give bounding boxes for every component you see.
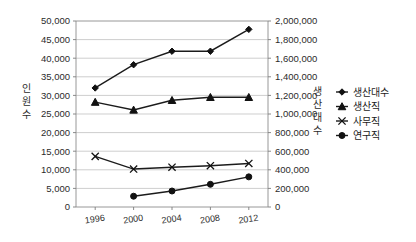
left-axis-tick-labels: 05,00010,00015,00020,00025,00030,00035,0… (41, 15, 70, 212)
right-axis-tick-label: 1,200,000 (275, 90, 317, 101)
chart-container: 05,00010,00015,00020,00025,00030,00035,0… (0, 0, 416, 242)
right-axis-title-char: 산 (313, 99, 322, 110)
right-axis-tick-label: 0 (275, 201, 280, 212)
line-chart: 05,00010,00015,00020,00025,00030,00035,0… (0, 0, 416, 242)
right-axis-tick-label: 1,000,000 (275, 108, 317, 119)
left-axis-tick-label: 30,000 (41, 90, 70, 101)
left-axis-tick-label: 10,000 (41, 164, 70, 175)
right-axis-tick-label: 1,600,000 (275, 53, 317, 64)
right-axis-tick-label: 400,000 (275, 164, 309, 175)
marker-circle (207, 181, 213, 187)
left-axis-tick-label: 15,000 (41, 146, 70, 157)
right-axis-tick-label: 1,800,000 (275, 34, 317, 45)
legend-label: 생산대수 (353, 87, 389, 98)
right-axis-tick-label: 600,000 (275, 146, 309, 157)
left-axis-tick-label: 5,000 (46, 183, 70, 194)
left-axis-title-char: 원 (22, 96, 31, 107)
marker-circle (131, 193, 137, 199)
legend-label: 사무직 (353, 116, 380, 127)
right-axis-title-char: 생 (313, 86, 322, 97)
right-axis-title-char: 수 (313, 125, 322, 136)
right-axis-title-char: 대 (313, 112, 322, 123)
marker-circle (169, 188, 175, 194)
left-axis-tick-label: 35,000 (41, 71, 70, 82)
right-axis-tick-label: 800,000 (275, 127, 309, 138)
left-axis-tick-label: 50,000 (41, 15, 70, 26)
legend-label: 연구직 (353, 130, 380, 141)
left-axis-tick-label: 0 (65, 201, 70, 212)
right-axis-tick-label: 200,000 (275, 183, 309, 194)
right-axis-tick-label: 2,000,000 (275, 15, 317, 26)
marker-circle (339, 133, 345, 139)
left-axis-tick-label: 25,000 (41, 108, 70, 119)
right-axis-tick-label: 1,400,000 (275, 71, 317, 82)
left-axis-tick-label: 45,000 (41, 34, 70, 45)
left-axis-tick-label: 40,000 (41, 53, 70, 64)
left-axis-title-char: 인 (22, 83, 31, 94)
marker-circle (246, 174, 252, 180)
left-axis-title: 인원수 (22, 83, 31, 120)
left-axis-title-char: 수 (22, 109, 31, 120)
legend-label: 생산직 (353, 101, 380, 112)
left-axis-tick-label: 20,000 (41, 127, 70, 138)
